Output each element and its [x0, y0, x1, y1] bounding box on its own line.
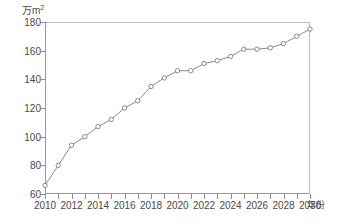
y-axis-tick-mark — [41, 22, 46, 23]
x-axis-tick-mark — [45, 194, 46, 199]
x-axis-tick-mark — [138, 194, 139, 199]
y-axis-tick-mark — [41, 51, 46, 52]
y-axis-tick-mark — [41, 137, 46, 138]
x-axis-tick-mark — [297, 194, 298, 199]
y-axis-unit-base: 万m — [22, 5, 40, 16]
x-axis-tick-label: 2010 — [34, 200, 56, 211]
y-axis-tick-label: 100 — [1, 131, 41, 142]
y-axis-tick-label: 60 — [1, 189, 41, 200]
x-axis-tick-mark — [85, 194, 86, 199]
x-axis-tick-mark — [72, 194, 73, 199]
x-axis-tick-mark — [191, 194, 192, 199]
y-axis-tick-label: 180 — [1, 17, 41, 28]
x-axis-tick-mark — [164, 194, 165, 199]
line-chart: 万m2 年份 1801601401201008060 2010201220142… — [0, 0, 340, 224]
x-axis-tick-mark — [125, 194, 126, 199]
y-axis-tick-mark — [41, 79, 46, 80]
x-axis-tick-mark — [244, 194, 245, 199]
x-axis-tick-label: 2018 — [140, 200, 162, 211]
x-axis-tick-mark — [257, 194, 258, 199]
x-axis-tick-mark — [111, 194, 112, 199]
x-axis-tick-label: 2014 — [87, 200, 109, 211]
x-axis-tick-label: 2016 — [113, 200, 135, 211]
y-axis-unit-superscript: 2 — [40, 4, 44, 11]
x-axis-tick-mark — [204, 194, 205, 199]
plot-area — [45, 22, 310, 194]
y-axis-tick-label: 80 — [1, 160, 41, 171]
x-axis-tick-mark — [231, 194, 232, 199]
x-axis-tick-mark — [151, 194, 152, 199]
y-axis-tick-mark — [41, 108, 46, 109]
x-axis-tick-label: 2022 — [193, 200, 215, 211]
x-axis-tick-label: 2026 — [246, 200, 268, 211]
x-axis-tick-mark — [217, 194, 218, 199]
x-axis-tick-mark — [98, 194, 99, 199]
x-axis-tick-label: 2020 — [166, 200, 188, 211]
y-axis-tick-label: 160 — [1, 45, 41, 56]
x-axis-tick-mark — [270, 194, 271, 199]
x-axis-tick-label: 2030 — [299, 200, 321, 211]
x-axis-tick-mark — [310, 194, 311, 199]
x-axis-tick-label: 2028 — [272, 200, 294, 211]
y-axis-unit-label: 万m2 — [22, 2, 44, 17]
y-axis-tick-label: 120 — [1, 103, 41, 114]
x-axis-tick-mark — [284, 194, 285, 199]
x-axis-tick-label: 2024 — [219, 200, 241, 211]
y-axis-tick-label: 140 — [1, 74, 41, 85]
y-axis-tick-mark — [41, 165, 46, 166]
x-axis-tick-mark — [58, 194, 59, 199]
x-axis-tick-label: 2012 — [60, 200, 82, 211]
x-axis-tick-mark — [178, 194, 179, 199]
